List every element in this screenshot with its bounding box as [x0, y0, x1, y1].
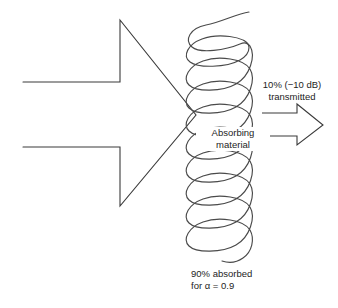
absorbing-material-label-line2: material: [196, 139, 270, 151]
absorbing-material-label-line1: Absorbing: [196, 127, 270, 139]
absorbed-label-line2: for α = 0.9: [191, 280, 287, 292]
absorbing-material-label: Absorbing material: [196, 127, 270, 151]
transmitted-label-line2: transmitted: [249, 91, 335, 103]
absorption-diagram: Absorbing material 10% (−10 dB) transmit…: [0, 0, 338, 308]
absorbed-label: 90% absorbed for α = 0.9: [191, 268, 287, 292]
transmitted-arrow-layer: [0, 0, 338, 308]
absorbed-label-line1: 90% absorbed: [191, 268, 287, 280]
transmitted-sound-arrow: [262, 104, 323, 145]
transmitted-label: 10% (−10 dB) transmitted: [249, 79, 335, 103]
transmitted-label-line1: 10% (−10 dB): [249, 79, 335, 91]
